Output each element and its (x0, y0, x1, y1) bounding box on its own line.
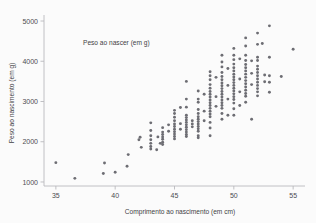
data-point (221, 54, 224, 57)
data-point (209, 134, 212, 137)
data-point (209, 104, 212, 107)
data-point (256, 71, 259, 74)
data-point (244, 73, 247, 76)
data-point (167, 123, 170, 126)
data-point (244, 63, 247, 66)
data-point (244, 79, 247, 82)
data-point (244, 66, 247, 69)
data-point (203, 93, 206, 96)
figure-background (0, 0, 316, 223)
data-point (244, 82, 247, 85)
data-point (232, 87, 235, 90)
y-tick-label: 4000 (22, 58, 38, 65)
data-point (161, 126, 164, 129)
data-point (179, 128, 182, 131)
data-point (280, 75, 283, 78)
scatter-plot-canvas: 3540455055 10002000300040005000 Comprime… (0, 0, 316, 223)
data-point (221, 104, 224, 107)
data-point (244, 76, 247, 79)
y-axis-title: Peso ao nascimento (em g) (8, 63, 16, 144)
data-point (268, 24, 271, 27)
data-point (209, 101, 212, 104)
data-point (250, 118, 253, 121)
data-point (261, 42, 264, 45)
data-point (209, 127, 212, 130)
data-point (102, 172, 105, 175)
data-point (149, 129, 152, 132)
data-point (161, 143, 164, 146)
data-point (226, 98, 229, 101)
data-point (197, 112, 200, 115)
data-point (263, 80, 266, 83)
data-point (191, 125, 194, 128)
data-point (221, 65, 224, 68)
plot-annotation: Peso ao nascer (em g) (83, 39, 150, 47)
data-point (149, 148, 152, 151)
data-point (191, 119, 194, 122)
data-point (268, 56, 271, 59)
data-point (127, 153, 130, 156)
data-point (250, 83, 253, 86)
data-point (221, 87, 224, 90)
data-point (139, 136, 142, 139)
data-point (226, 114, 229, 117)
data-point (185, 98, 188, 101)
data-point (209, 110, 212, 113)
x-axis-title: Comprimento ao nascimento (em cm) (125, 208, 235, 216)
data-point (244, 54, 247, 57)
data-point (256, 94, 259, 97)
y-tick-label: 2000 (22, 138, 38, 145)
data-point (244, 59, 247, 62)
data-point (173, 137, 176, 140)
data-point (215, 105, 218, 108)
data-point (209, 87, 212, 90)
data-point (185, 80, 188, 83)
data-point (209, 113, 212, 116)
data-point (232, 76, 235, 79)
data-point (103, 162, 106, 165)
data-point (114, 171, 117, 174)
data-point (238, 90, 241, 93)
data-point (232, 73, 235, 76)
data-point (185, 106, 188, 109)
data-point (173, 112, 176, 115)
data-point (221, 75, 224, 78)
data-point (256, 87, 259, 90)
data-point (232, 92, 235, 95)
data-point (268, 91, 271, 94)
data-point (256, 84, 259, 87)
data-point (221, 101, 224, 104)
x-tick-label: 50 (230, 192, 238, 199)
data-point (221, 96, 224, 99)
x-tick-label: 35 (52, 192, 60, 199)
data-point (292, 48, 295, 51)
data-point (268, 81, 271, 84)
data-point (244, 92, 247, 95)
data-point (232, 66, 235, 69)
data-point (209, 90, 212, 93)
data-point (232, 90, 235, 93)
data-point (232, 63, 235, 66)
data-point (256, 59, 259, 62)
data-point (209, 93, 212, 96)
data-point (149, 142, 152, 145)
data-point (256, 43, 259, 46)
data-point (232, 78, 235, 81)
data-point (238, 78, 241, 81)
data-point (209, 107, 212, 110)
data-point (126, 165, 129, 168)
data-point (209, 121, 212, 124)
y-tick-label: 1000 (22, 179, 38, 186)
data-point (221, 98, 224, 101)
data-point (232, 58, 235, 61)
data-point (197, 90, 200, 93)
data-point (73, 177, 76, 180)
data-point (173, 125, 176, 128)
data-point (149, 134, 152, 137)
data-point (268, 74, 271, 77)
data-point (221, 61, 224, 64)
data-point (232, 107, 235, 110)
data-point (173, 119, 176, 122)
data-point (226, 84, 229, 87)
data-point (232, 95, 235, 98)
